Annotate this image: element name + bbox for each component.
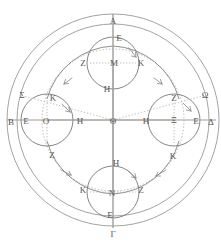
- label-omega: Ω: [202, 91, 209, 100]
- label-alpha: Α: [110, 17, 117, 26]
- label-mu: Μ: [110, 59, 118, 68]
- label-theta-center: Θ: [110, 117, 117, 126]
- label-sigma: Σ: [19, 91, 24, 100]
- label-epsilon-top: Ε: [116, 34, 122, 43]
- label-zeta-bottom: Ζ: [138, 186, 144, 195]
- label-zeta-top: Ζ: [80, 59, 86, 68]
- geometric-diagram: Α Γ Β Δ Σ Ω Ε Ζ Μ Κ Η Κ Ε Ο Η Ζ Θ Ζ Η Ξ …: [0, 0, 221, 248]
- label-kappa-bottom: Κ: [80, 186, 87, 195]
- label-eta-bottom: Η: [113, 159, 120, 168]
- label-nu: Ν: [109, 189, 116, 198]
- label-delta: Δ: [208, 118, 214, 127]
- label-epsilon-bottom: Ε: [107, 211, 113, 220]
- label-kappa-left: Κ: [50, 94, 57, 103]
- label-eta-right: Η: [143, 117, 150, 126]
- label-zeta-left: Ζ: [49, 151, 55, 160]
- label-xi: Ξ: [171, 116, 177, 125]
- label-beta: Β: [8, 118, 14, 127]
- label-kappa-right: Κ: [170, 152, 177, 161]
- oblique-axis-left-line: [20, 95, 113, 120]
- label-omicron: Ο: [43, 117, 50, 126]
- label-kappa-top: Κ: [138, 59, 145, 68]
- label-gamma: Γ: [110, 230, 115, 239]
- label-zeta-right: Ζ: [171, 94, 177, 103]
- label-epsilon-left: Ε: [23, 117, 29, 126]
- label-eta-left: Η: [77, 117, 84, 126]
- label-eta-top: Η: [104, 85, 111, 94]
- label-epsilon-right: Ε: [193, 117, 199, 126]
